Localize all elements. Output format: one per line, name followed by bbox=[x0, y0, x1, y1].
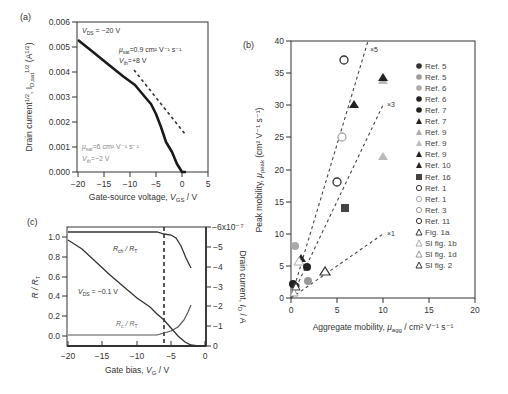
panel-a-x-axis bbox=[78, 172, 208, 177]
point-si2 bbox=[320, 267, 330, 275]
point-ref1-light bbox=[338, 133, 346, 141]
legend-item: Ref. 16 bbox=[425, 173, 451, 182]
tick-label: 10 bbox=[275, 229, 285, 239]
panel-b-label: (b) bbox=[243, 40, 254, 50]
tick-label: −1 bbox=[213, 321, 223, 331]
guide-label-x5: ×5 bbox=[370, 46, 378, 53]
panel-a-x-label: Gate-source voltage, VGS / V bbox=[89, 192, 198, 203]
tick-label: 5 bbox=[206, 179, 211, 189]
panel-b-y-ticklabels: 0 5 10 15 20 25 30 35 40 bbox=[275, 36, 285, 303]
panel-b-x-ticklabels: 0 5 10 15 20 bbox=[289, 305, 480, 315]
tick-label: 35 bbox=[275, 68, 285, 78]
panel-a-mu-high-annotation: μsat=0.9 cm² V⁻¹ s⁻¹ bbox=[118, 46, 182, 55]
panel-a-vth-high-annotation: Vth=+8 V bbox=[119, 57, 147, 66]
figure-canvas: (a) 0.000 0.001 0.002 0.003 0.004 0.005 … bbox=[0, 0, 508, 394]
guide-label-x3: ×3 bbox=[387, 101, 395, 108]
legend-item: Ref. 9 bbox=[425, 150, 447, 159]
panel-c-y-ticklabels: 0.0 0.2 0.4 0.6 0.8 1.0 bbox=[48, 232, 60, 341]
panel-c-rc-annotation: Rc / RT bbox=[116, 320, 138, 329]
tick-label: 30 bbox=[275, 100, 285, 110]
tick-label: −5 bbox=[166, 351, 176, 361]
legend-item: Ref. 9 bbox=[425, 128, 447, 137]
legend-item: Ref. 7 bbox=[425, 106, 447, 115]
panel-a-vth-low-annotation: Vth=−2 V bbox=[82, 155, 110, 164]
panel-a-label: (a) bbox=[20, 12, 31, 22]
tick-label: 15 bbox=[275, 197, 285, 207]
legend-item: Ref. 9 bbox=[425, 139, 447, 148]
tick-label: 20 bbox=[275, 165, 285, 175]
panel-c-rch-annotation: Rch / RT bbox=[113, 245, 137, 254]
legend-item: SI fig. 1d bbox=[425, 250, 457, 259]
panel-c-y-label: R / RT bbox=[30, 275, 41, 298]
panel-c: (c) 0.0 0.2 0.4 0.6 0.8 1.0 0 −1 −2 bbox=[27, 217, 248, 376]
tick-label: 0.6 bbox=[48, 272, 60, 282]
legend-item: Fig. 1a bbox=[425, 228, 450, 237]
tick-label: −10 bbox=[130, 351, 145, 361]
tick-label: 0.8 bbox=[48, 252, 60, 262]
legend-item: Ref. 11 bbox=[425, 217, 451, 226]
tick-label: 0.001 bbox=[49, 142, 71, 152]
tick-label: 0.000 bbox=[49, 167, 71, 177]
tick-label: 0.2 bbox=[48, 311, 60, 321]
tick-label: −20 bbox=[71, 179, 86, 189]
point-ref6-light bbox=[291, 242, 299, 250]
tick-label: −15 bbox=[97, 179, 112, 189]
tick-label: 0 bbox=[213, 341, 218, 351]
tick-label: 1.0 bbox=[48, 232, 60, 242]
point-ref10 bbox=[378, 73, 388, 81]
tick-label: 0.0 bbox=[48, 331, 60, 341]
tick-label: 0.005 bbox=[49, 42, 71, 52]
tick-label: 0 bbox=[279, 293, 284, 303]
tick-label: 0 bbox=[289, 305, 294, 315]
tick-label: −5 bbox=[151, 179, 161, 189]
point-ref1-dark bbox=[333, 178, 341, 186]
point-ref7-circle bbox=[303, 263, 311, 271]
tick-label: 5 bbox=[335, 305, 340, 315]
tick-label: 0.004 bbox=[49, 67, 71, 77]
tick-label: 5 bbox=[279, 261, 284, 271]
tick-label: 0.4 bbox=[48, 291, 60, 301]
legend-item: Ref. 10 bbox=[425, 161, 451, 170]
guide-label-x1: ×1 bbox=[387, 230, 395, 237]
panel-a-vds-annotation: VDS = −20 V bbox=[82, 27, 120, 36]
panel-b: (b) 0 5 10 15 20 25 30 35 40 0 bbox=[243, 36, 480, 333]
legend-item: Ref. 3 bbox=[425, 206, 447, 215]
tick-label: 20 bbox=[470, 305, 480, 315]
tick-label: −2 bbox=[213, 301, 223, 311]
tick-label: 0.003 bbox=[49, 92, 71, 102]
tick-label: 40 bbox=[275, 36, 285, 46]
tick-label: −15 bbox=[95, 351, 110, 361]
tick-label: −6x10⁻⁷ bbox=[212, 222, 243, 232]
panel-b-guide-lines bbox=[291, 41, 383, 298]
tick-label: −3 bbox=[213, 282, 223, 292]
panel-a-x-ticklabels: −20 −15 −10 −5 0 5 bbox=[71, 179, 211, 189]
panel-b-x-axis bbox=[291, 298, 475, 303]
point-ref5-light bbox=[304, 277, 312, 285]
tick-label: 0 bbox=[180, 179, 185, 189]
tick-label: 0 bbox=[203, 351, 208, 361]
legend-item: Ref. 1 bbox=[425, 184, 447, 193]
tick-label: 0.006 bbox=[49, 17, 71, 27]
legend-item: Ref. 6 bbox=[425, 95, 447, 104]
panel-a-mu-low-annotation: μsat=6 cm² V⁻¹ s⁻¹ bbox=[81, 143, 139, 152]
tick-label: 10 bbox=[378, 305, 388, 315]
tick-label: −5 bbox=[213, 242, 223, 252]
panel-a-y-axis bbox=[72, 22, 77, 172]
panel-c-y-axis bbox=[62, 237, 67, 336]
legend-item: Ref. 7 bbox=[425, 117, 447, 126]
point-ref16 bbox=[341, 204, 349, 212]
legend-item: Ref. 6 bbox=[425, 84, 447, 93]
legend-item: Ref. 5 bbox=[425, 73, 447, 82]
tick-label: 0.002 bbox=[49, 117, 71, 127]
panel-c-x-label: Gate bias, VG / V bbox=[105, 365, 170, 376]
panel-b-x-label: Aggregate mobility, μagg / cm² V⁻¹ s⁻¹ bbox=[313, 322, 454, 333]
legend-item: Ref. 5 bbox=[425, 62, 447, 71]
panel-b-y-axis bbox=[286, 41, 291, 298]
panel-a-y-label: Drain current1/2, ID,sat1/2 (A1/2) bbox=[24, 42, 35, 151]
panel-a-y-ticklabels: 0.000 0.001 0.002 0.003 0.004 0.005 0.00… bbox=[49, 17, 71, 177]
tick-label: −20 bbox=[61, 351, 76, 361]
panel-c-x-ticklabels: −20 −15 −10 −5 0 bbox=[61, 351, 208, 361]
legend-item: Ref. 1 bbox=[425, 195, 447, 204]
panel-b-data-points bbox=[289, 56, 388, 296]
panel-a: (a) 0.000 0.001 0.002 0.003 0.004 0.005 … bbox=[20, 12, 211, 203]
